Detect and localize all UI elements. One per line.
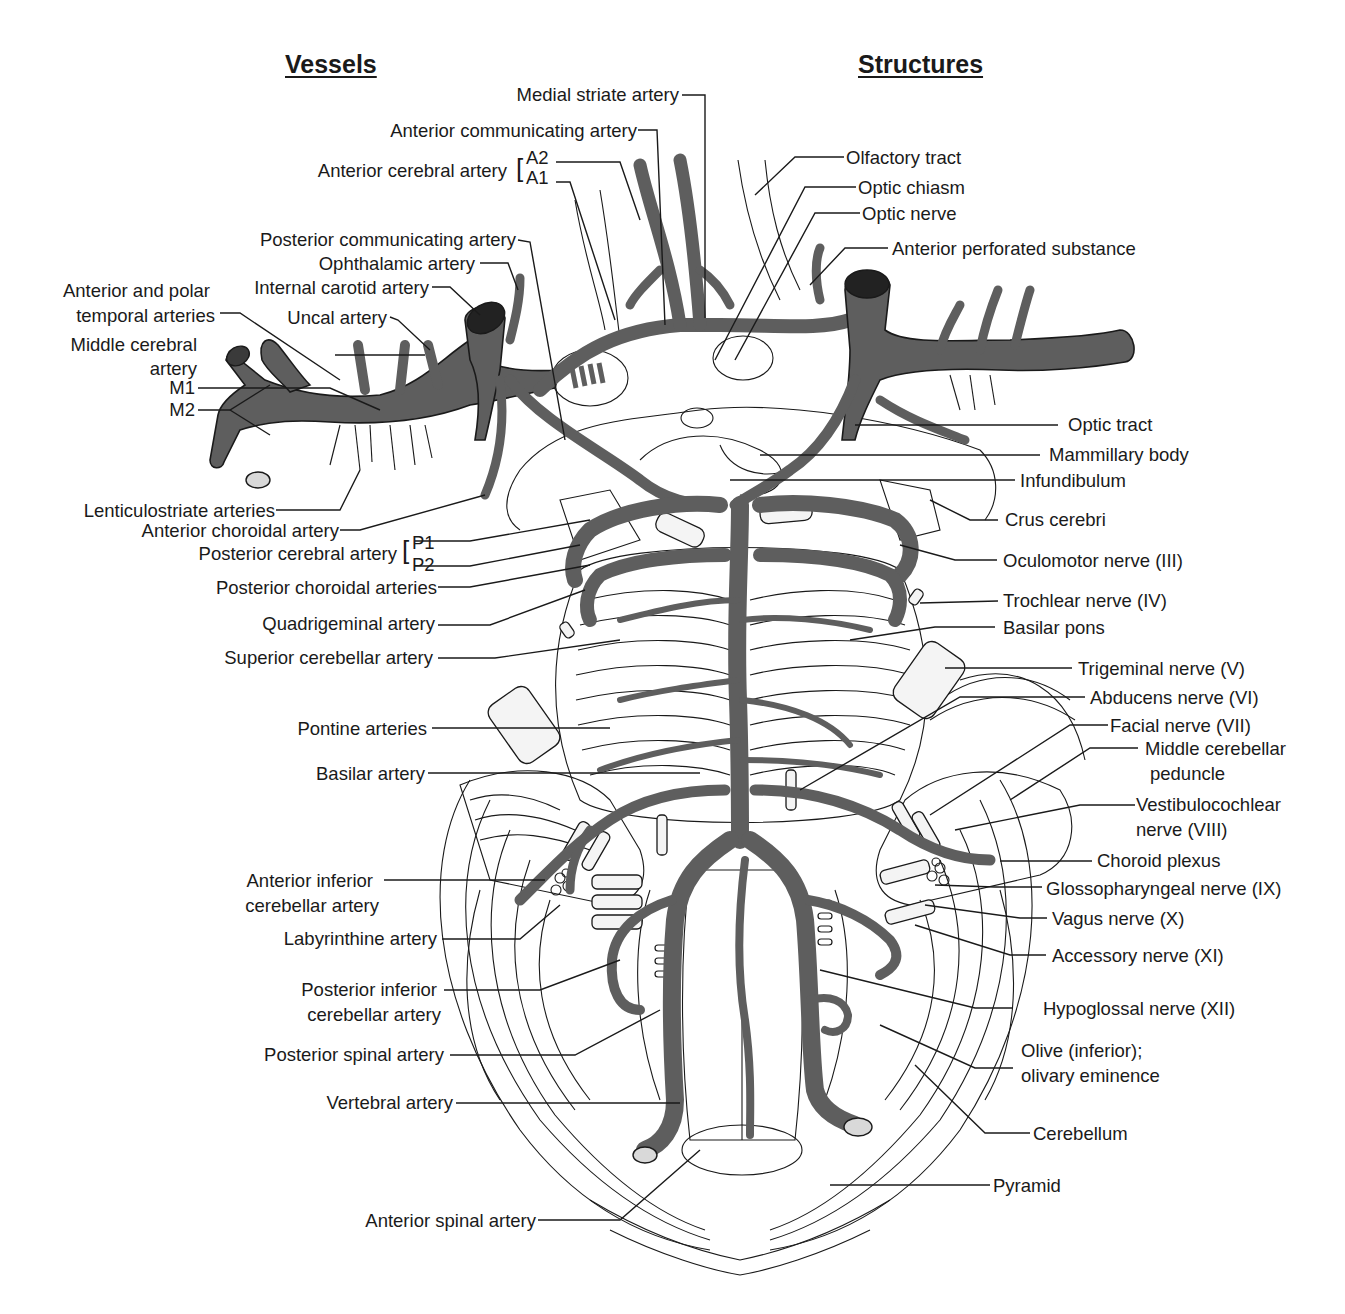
label-a2: A2 <box>526 148 549 168</box>
label-oculomotor-nerve: Oculomotor nerve (III) <box>1003 548 1183 573</box>
label-abducens-nerve: Abducens nerve (VI) <box>1090 685 1259 710</box>
label-posterior-choroidal-arteries: Posterior choroidal arteries <box>216 575 437 600</box>
label-anterior-communicating-artery: Anterior communicating artery <box>390 118 637 143</box>
label-glossopharyngeal-nerve: Glossopharyngeal nerve (IX) <box>1046 876 1281 901</box>
label-aica-line1: Anterior inferior <box>247 868 373 893</box>
label-pica-line2: cerebellar artery <box>307 1002 441 1027</box>
brainstem-arterial-supply-diagram: Vessels Structures Medial striate artery… <box>0 0 1345 1314</box>
label-p2: P2 <box>412 552 435 577</box>
vessels-heading: Vessels <box>285 50 377 79</box>
label-aica-line2: cerebellar artery <box>245 893 379 918</box>
label-superior-cerebellar-artery: Superior cerebellar artery <box>224 645 433 670</box>
label-middle-cerebral-line1: Middle cerebral <box>71 332 197 357</box>
label-labyrinthine-artery: Labyrinthine artery <box>284 926 437 951</box>
label-cerebellum: Cerebellum <box>1033 1121 1128 1146</box>
label-vestibulocochlear-line1: Vestibulocochlear <box>1136 792 1281 817</box>
label-optic-nerve: Optic nerve <box>862 201 957 226</box>
label-trochlear-nerve: Trochlear nerve (IV) <box>1003 588 1167 613</box>
label-posterior-cerebral-artery: Posterior cerebral artery <box>199 541 397 566</box>
label-optic-tract: Optic tract <box>1068 412 1152 437</box>
label-trigeminal-nerve: Trigeminal nerve (V) <box>1078 656 1245 681</box>
label-vestibulocochlear-line2: nerve (VIII) <box>1136 817 1228 842</box>
label-anterior-cerebral-artery: Anterior cerebral artery <box>318 158 507 183</box>
label-uncal-artery: Uncal artery <box>287 305 387 330</box>
label-mammillary-body: Mammillary body <box>1049 442 1189 467</box>
label-crus-cerebri: Crus cerebri <box>1005 507 1106 532</box>
label-infundibulum: Infundibulum <box>1020 468 1126 493</box>
label-optic-chiasm: Optic chiasm <box>858 175 965 200</box>
label-olive-line2: olivary eminence <box>1021 1063 1160 1088</box>
label-vertebral-artery: Vertebral artery <box>327 1090 453 1115</box>
label-basilar-pons: Basilar pons <box>1003 615 1105 640</box>
label-pyramid: Pyramid <box>993 1173 1061 1198</box>
label-anterior-polar-temporal-line1: Anterior and polar <box>63 278 210 303</box>
label-m2: M2 <box>169 397 195 422</box>
label-quadrigeminal-artery: Quadrigeminal artery <box>262 611 435 636</box>
label-posterior-spinal-artery: Posterior spinal artery <box>264 1042 444 1067</box>
label-facial-nerve: Facial nerve (VII) <box>1110 713 1251 738</box>
structures-heading: Structures <box>858 50 983 79</box>
label-internal-carotid-artery: Internal carotid artery <box>254 275 429 300</box>
label-accessory-nerve: Accessory nerve (XI) <box>1052 943 1224 968</box>
label-pica-line1: Posterior inferior <box>301 977 437 1002</box>
label-hypoglossal-nerve: Hypoglossal nerve (XII) <box>1043 996 1235 1021</box>
label-posterior-communicating-artery: Posterior communicating artery <box>260 227 516 252</box>
label-olfactory-tract: Olfactory tract <box>846 145 961 170</box>
label-anterior-perforated-substance: Anterior perforated substance <box>892 236 1136 261</box>
label-mcp-line2: peduncle <box>1150 761 1225 786</box>
label-anterior-choroidal-artery: Anterior choroidal artery <box>142 518 339 543</box>
label-ophthalamic-artery: Ophthalamic artery <box>319 251 475 276</box>
label-olive-line1: Olive (inferior); <box>1021 1038 1142 1063</box>
label-anterior-polar-temporal-line2: temporal arteries <box>76 303 215 328</box>
label-medial-striate-artery: Medial striate artery <box>517 82 679 107</box>
label-choroid-plexus: Choroid plexus <box>1097 848 1220 873</box>
label-basilar-artery: Basilar artery <box>316 761 425 786</box>
label-pontine-arteries: Pontine arteries <box>297 716 427 741</box>
label-mcp-line1: Middle cerebellar <box>1145 736 1286 761</box>
label-vagus-nerve: Vagus nerve (X) <box>1052 906 1184 931</box>
label-a1: A1 <box>526 168 549 188</box>
label-anterior-spinal-artery: Anterior spinal artery <box>365 1208 536 1233</box>
